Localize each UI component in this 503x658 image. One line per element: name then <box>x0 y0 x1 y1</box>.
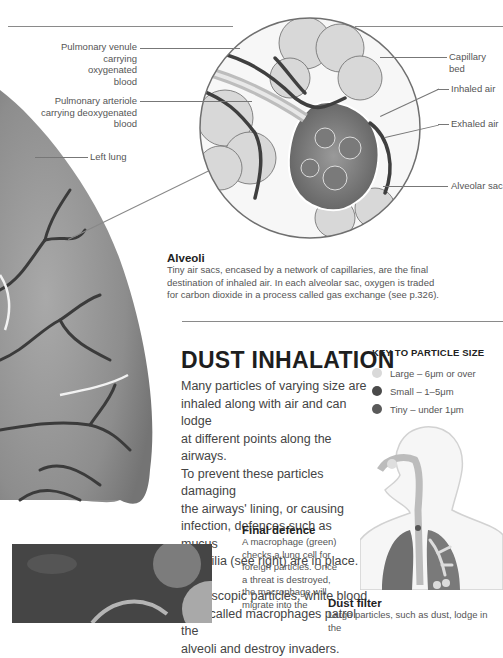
body-line: inhaled along with air and can lodge <box>181 396 371 431</box>
leader-left-lung <box>35 157 88 158</box>
label-capillary-bed: Capillary bed <box>449 51 503 74</box>
caption-line: A macrophage (green) <box>242 536 352 549</box>
label-inhaled-air: Inhaled air <box>451 83 495 95</box>
key-item-large: Large – 6μm or over <box>372 364 503 382</box>
body-line: at different points along the airways. <box>181 431 371 466</box>
airway-body-illustration <box>360 415 503 590</box>
large-particle-dot-icon <box>372 368 382 378</box>
body-line: Many particles of varying size are <box>181 378 371 396</box>
particle-size-key: KEY TO PARTICLE SIZE Large – 6μm or over… <box>372 347 503 418</box>
alveoli-zoom-illustration <box>195 8 425 248</box>
label-line: carrying deoxygenated <box>40 107 137 119</box>
caption-line: Tiny air sacs, encased by a network of c… <box>167 264 503 277</box>
body-line: the airways' lining, or causing <box>181 501 371 519</box>
caption-line: foreign particles. Once <box>242 561 352 574</box>
label-pulmonary-arteriole: Pulmonary arteriole carrying deoxygenate… <box>40 95 137 130</box>
caption-line: a threat is destroyed, <box>242 574 352 587</box>
alveoli-text: Tiny air sacs, encased by a network of c… <box>167 264 503 302</box>
body-line: To prevent these particles damaging <box>181 466 371 501</box>
dust-inhalation-title: DUST INHALATION <box>181 347 395 374</box>
alveoli-caption: Alveoli Tiny air sacs, encased by a netw… <box>167 252 503 302</box>
label-line: Pulmonary arteriole <box>40 95 137 107</box>
key-item-label: Tiny – under 1μm <box>390 404 464 415</box>
label-line: Pulmonary venule <box>60 41 137 53</box>
tiny-particle-dot-icon <box>372 404 382 414</box>
label-exhaled-air: Exhaled air <box>451 118 499 130</box>
label-pulmonary-venule: Pulmonary venule carrying oxygenated blo… <box>60 41 137 87</box>
caption-line: destination of inhaled air. In each alve… <box>167 277 503 290</box>
alveoli-heading: Alveoli <box>167 252 503 264</box>
label-left-lung: Left lung <box>90 151 126 163</box>
small-particle-dot-icon <box>372 386 382 396</box>
leader-exhaled-air <box>438 124 449 125</box>
caption-line: Large particles, such as dust, lodge in … <box>328 609 503 634</box>
leader-pulmonary-arteriole <box>140 101 252 102</box>
label-alveolar-sac: Alveolar sac <box>451 180 503 192</box>
key-item-label: Small – 1–5μm <box>390 386 454 397</box>
body-line: alveoli and destroy invaders. <box>181 641 371 658</box>
label-line: blood <box>60 76 137 88</box>
key-item-label: Large – 6μm or over <box>390 368 476 379</box>
caption-line: for carbon dioxide in a process called g… <box>167 289 503 302</box>
key-item-small: Small – 1–5μm <box>372 382 503 400</box>
caption-line: checks a lung cell for <box>242 549 352 562</box>
dust-filter-caption: Dust filter Large particles, such as dus… <box>328 597 503 634</box>
dust-filter-text: Large particles, such as dust, lodge in … <box>328 609 503 634</box>
macrophage-micrograph <box>12 544 212 623</box>
leader-pulmonary-venule <box>140 48 240 49</box>
leader-alveolar-sac <box>383 186 448 187</box>
label-line: blood <box>40 118 137 130</box>
label-line: carrying oxygenated <box>60 53 137 76</box>
key-title: KEY TO PARTICLE SIZE <box>372 347 503 358</box>
section-divider <box>182 321 503 322</box>
final-defence-heading: Final defence <box>242 524 352 536</box>
dust-filter-heading: Dust filter <box>328 597 503 609</box>
leader-capillary-bed <box>380 57 447 58</box>
